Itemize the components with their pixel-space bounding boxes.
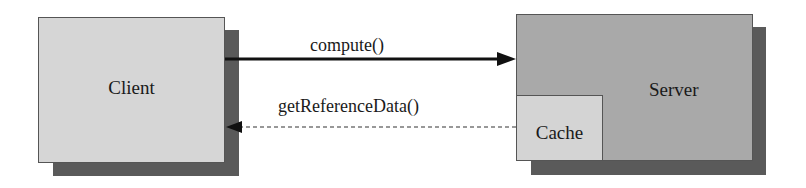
edges-layer — [0, 0, 806, 188]
compute-label: compute() — [310, 35, 384, 56]
get-reference-data-label: getReferenceData() — [278, 96, 419, 117]
get-reference-data-arrow — [226, 121, 516, 133]
